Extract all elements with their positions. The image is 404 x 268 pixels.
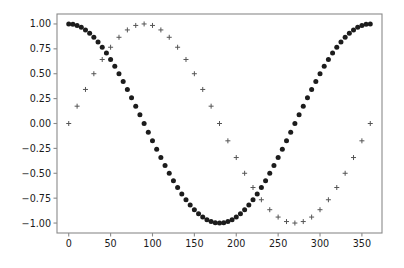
data-point: [83, 27, 88, 32]
data-point: [343, 35, 348, 40]
data-point: [167, 171, 172, 176]
data-point: [137, 112, 142, 117]
scatter-plot: 1.000.750.500.250.00−0.25−0.50−0.75−1.00…: [0, 0, 404, 268]
data-point: [284, 138, 289, 143]
data-point: [100, 45, 105, 50]
data-point: [158, 155, 163, 160]
x-tick-label: 350: [353, 238, 371, 249]
data-point: [251, 197, 256, 202]
data-point: [104, 51, 109, 56]
data-point: [359, 23, 364, 28]
x-tick-label: 150: [185, 238, 203, 249]
data-point: [142, 121, 147, 126]
data-point: [196, 211, 201, 216]
data-point: [309, 87, 314, 92]
y-tick-label: 0.25: [30, 93, 51, 104]
x-tick-label: 200: [227, 238, 245, 249]
data-point: [271, 163, 276, 168]
data-point: [230, 217, 235, 222]
y-tick-label: 0.50: [30, 68, 51, 79]
data-point: [121, 79, 126, 84]
x-tick-label: 50: [104, 238, 116, 249]
data-point: [347, 31, 352, 36]
chart-figure: 1.000.750.500.250.00−0.25−0.50−0.75−1.00…: [0, 0, 404, 268]
data-point: [171, 178, 176, 183]
data-point: [292, 121, 297, 126]
data-point: [313, 79, 318, 84]
y-tick-label: −0.25: [22, 143, 51, 154]
data-point: [280, 147, 285, 152]
data-point: [267, 171, 272, 176]
x-tick-label: 300: [311, 238, 329, 249]
data-point: [368, 21, 373, 26]
data-point: [70, 22, 75, 27]
data-point: [322, 64, 327, 69]
data-point: [108, 57, 113, 62]
y-tick-label: 0.75: [30, 43, 51, 54]
x-tick-label: 250: [269, 238, 287, 249]
data-point: [318, 71, 323, 76]
data-point: [276, 155, 281, 160]
data-point: [154, 147, 159, 152]
data-point: [79, 25, 84, 30]
data-point: [234, 215, 239, 220]
data-point: [133, 104, 138, 109]
data-point: [91, 35, 96, 40]
data-point: [242, 207, 247, 212]
data-point: [163, 163, 168, 168]
y-tick-label: −0.50: [22, 168, 51, 179]
data-point: [192, 207, 197, 212]
data-point: [129, 95, 134, 100]
data-point: [326, 57, 331, 62]
x-tick-label: 100: [143, 238, 161, 249]
y-tick-label: 1.00: [30, 18, 51, 29]
data-point: [259, 185, 264, 190]
data-point: [263, 178, 268, 183]
data-point: [87, 31, 92, 36]
data-point: [301, 104, 306, 109]
y-tick-label: −1.00: [22, 218, 51, 229]
data-point: [175, 185, 180, 190]
data-point: [338, 39, 343, 44]
data-point: [183, 197, 188, 202]
data-point: [330, 51, 335, 56]
data-point: [116, 71, 121, 76]
data-point: [188, 203, 193, 208]
y-tick-label: −0.75: [22, 193, 51, 204]
data-point: [351, 27, 356, 32]
data-point: [200, 215, 205, 220]
data-point: [150, 138, 155, 143]
data-point: [238, 211, 243, 216]
x-tick-label: 0: [66, 238, 72, 249]
data-point: [288, 130, 293, 135]
data-point: [246, 203, 251, 208]
data-point: [297, 112, 302, 117]
data-point: [255, 191, 260, 196]
y-tick-label: 0.00: [30, 118, 51, 129]
data-point: [112, 64, 117, 69]
data-point: [125, 87, 130, 92]
data-point: [179, 191, 184, 196]
data-point: [96, 39, 101, 44]
data-point: [221, 220, 226, 225]
data-point: [146, 130, 151, 135]
data-point: [209, 219, 214, 224]
data-point: [305, 95, 310, 100]
data-point: [334, 45, 339, 50]
